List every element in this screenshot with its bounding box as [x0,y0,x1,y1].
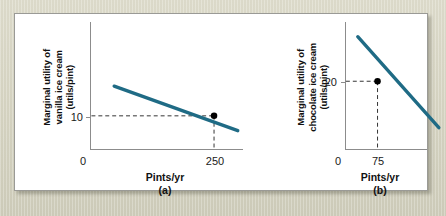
x-tick-label-b-0: 0 [331,155,345,167]
marginal-utility-line-a [114,86,238,130]
data-point-marker-b [374,78,381,85]
y-axis-a [90,22,91,150]
chart-panel-b: Marginal utility of chocolate ice cream … [245,14,429,190]
chart-panel-a: Marginal utility of vanilla ice cream (u… [15,14,245,190]
y-tick-mark-a-10 [86,117,91,118]
x-axis-a [90,149,243,150]
y-tick-mark-b-20 [341,82,346,83]
y-tick-label-a-10: 10 [55,111,83,123]
panel-caption-b: (b) [330,184,430,196]
y-axis-label-a: Marginal utility of vanilla ice cream (u… [41,32,76,142]
y-tick-label-b-20: 20 [309,76,337,88]
x-axis-b [345,149,427,150]
panel-caption-a: (a) [115,184,215,196]
figure-panel: Marginal utility of vanilla ice cream (u… [14,13,428,191]
x-tick-label-a-250: 250 [198,155,232,167]
x-axis-label-b: Pints/yr [330,171,430,183]
x-axis-label-a: Pints/yr [115,171,215,183]
marginal-utility-line-b [358,37,439,128]
y-axis-b [345,22,346,150]
x-tick-label-b-75: 75 [363,155,393,167]
data-point-marker-a [211,113,218,120]
x-tick-label-a-0: 0 [76,155,90,167]
